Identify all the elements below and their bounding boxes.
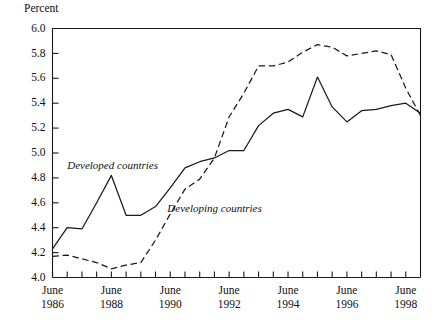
x-tick-label-year-1998: 1998 bbox=[394, 298, 417, 310]
y-tick-label-5.6: 5.6 bbox=[31, 71, 46, 83]
y-tick-label-6.0: 6.0 bbox=[31, 22, 46, 34]
x-tick-label-month-1992: June bbox=[219, 284, 240, 296]
y-tick-label-4.4: 4.4 bbox=[31, 221, 46, 233]
y-tick-label-5.0: 5.0 bbox=[31, 146, 46, 158]
x-tick-label-year-1990: 1990 bbox=[159, 298, 182, 310]
x-tick-label-year-1996: 1996 bbox=[335, 298, 358, 310]
y-tick-label-4.8: 4.8 bbox=[31, 171, 46, 183]
x-tick-label-month-1988: June bbox=[101, 284, 122, 296]
x-tick-label-year-1992: 1992 bbox=[218, 298, 241, 310]
y-tick-label-4.6: 4.6 bbox=[31, 196, 46, 208]
y-tick-label-5.8: 5.8 bbox=[31, 47, 46, 59]
x-tick-label-month-1994: June bbox=[277, 284, 298, 296]
line-chart: 4.04.24.44.64.85.05.25.45.65.86.0June198… bbox=[0, 0, 436, 325]
x-tick-label-month-1986: June bbox=[42, 284, 63, 296]
series-line-developing-countries bbox=[53, 45, 421, 269]
chart-container: 4.04.24.44.64.85.05.25.45.65.86.0June198… bbox=[0, 0, 436, 325]
x-tick-label-month-1998: June bbox=[395, 284, 416, 296]
x-tick-label-year-1986: 1986 bbox=[41, 298, 64, 310]
plot-frame bbox=[53, 29, 421, 278]
developing-countries-label: Developing countries bbox=[166, 202, 261, 214]
x-tick-label-month-1996: June bbox=[336, 284, 357, 296]
developed-countries-label: Developed countries bbox=[66, 159, 158, 171]
y-tick-label-5.4: 5.4 bbox=[31, 96, 46, 108]
y-tick-label-5.2: 5.2 bbox=[31, 121, 46, 133]
y-axis-title: Percent bbox=[24, 2, 59, 14]
x-tick-label-year-1988: 1988 bbox=[100, 298, 123, 310]
y-tick-label-4.2: 4.2 bbox=[31, 246, 46, 258]
x-tick-label-year-1994: 1994 bbox=[277, 298, 300, 310]
x-tick-label-month-1990: June bbox=[160, 284, 181, 296]
y-tick-label-4.0: 4.0 bbox=[31, 271, 46, 283]
